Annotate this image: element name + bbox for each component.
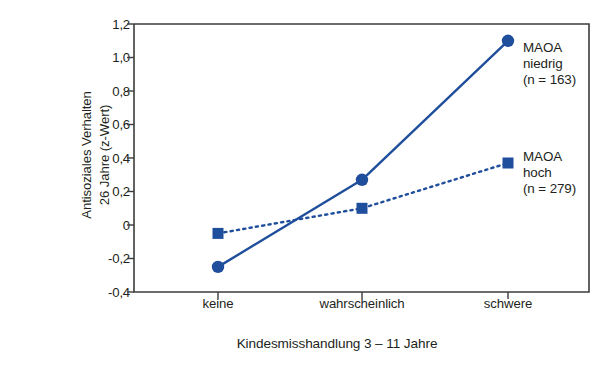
x-axis-tick-labels: keine wahrscheinlich schwere [0, 297, 616, 319]
series-label-line-2: hoch [523, 165, 576, 181]
data-point-marker [356, 174, 368, 186]
series-maoa-niedrig-markers [212, 35, 514, 273]
series-label-line-3: (n = 279) [523, 181, 576, 197]
x-tick-label: keine [202, 297, 233, 310]
x-tick-label: wahrscheinlich [319, 297, 404, 310]
data-point-marker [213, 228, 224, 239]
series-label-line-1: MAOA [523, 149, 576, 165]
chart-figure: Antisoziales Verhalten 26 Jahre (z-Wert)… [0, 0, 616, 367]
x-axis-title-text: Kindesmisshandlung 3 – 11 Jahre [179, 336, 438, 351]
series-label-maoa-niedrig: MAOA niedrig (n = 163) [523, 40, 576, 87]
series-label-line-1: MAOA [523, 40, 576, 56]
series-maoa-niedrig [218, 41, 508, 267]
series-label-maoa-hoch: MAOA hoch (n = 279) [523, 149, 576, 196]
y-axis-ticks [127, 24, 134, 292]
data-point-marker [502, 35, 514, 47]
axis-frame [134, 24, 589, 292]
x-tick-label: schwere [484, 297, 532, 310]
data-point-marker [357, 203, 368, 214]
series-label-line-2: niedrig [523, 56, 576, 72]
data-point-marker [212, 261, 224, 273]
data-point-marker [503, 158, 514, 169]
series-label-line-3: (n = 163) [523, 72, 576, 88]
x-axis-title: Kindesmisshandlung 3 – 11 Jahre [0, 336, 616, 352]
series-maoa-hoch [218, 163, 508, 233]
